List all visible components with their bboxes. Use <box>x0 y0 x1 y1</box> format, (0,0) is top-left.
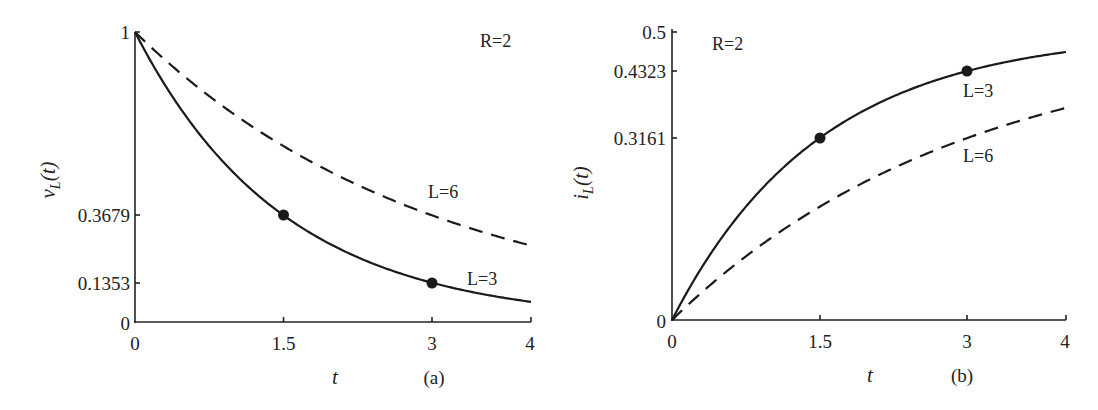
y-tick-label-b: 0.4323 <box>614 61 666 82</box>
curve-l6-b <box>672 108 1066 320</box>
panel-b: 0.5 0.4323 0.3161 0 0 1.5 3 4 t (b) iL(t… <box>569 22 1070 387</box>
curve-l6-a <box>135 32 531 246</box>
curve-l3-b <box>672 52 1066 320</box>
x-tick-label-a: 3 <box>427 333 437 354</box>
marker-point-b <box>962 66 973 77</box>
y-tick-label-a: 0 <box>121 313 131 334</box>
curve-label-l6-a: L=6 <box>428 182 458 202</box>
curve-label-l3-a: L=3 <box>467 269 497 289</box>
marker-point-a <box>427 278 438 289</box>
x-tick-label-b: 1.5 <box>808 331 832 352</box>
y-tick-label-a: 0.3679 <box>78 205 130 226</box>
panel-caption-a: (a) <box>423 367 444 389</box>
svg-text:vL(t): vL(t) <box>36 162 63 199</box>
panel-caption-b: (b) <box>951 365 973 387</box>
y-axis-title-b: iL(t) <box>569 166 596 199</box>
x-tick-label-b: 3 <box>962 331 972 352</box>
y-tick-label-a: 0.1353 <box>78 273 130 294</box>
x-axis-title-a: t <box>332 365 339 389</box>
svg-text:iL(t): iL(t) <box>569 166 596 199</box>
y-tick-label-b: 0.5 <box>642 22 666 43</box>
y-tick-label-b: 0.3161 <box>614 128 666 149</box>
x-tick-label-b: 4 <box>1060 331 1070 352</box>
y-tick-label-b: 0 <box>657 311 667 332</box>
x-tick-label-a: 0 <box>130 333 140 354</box>
param-label-b: R=2 <box>712 34 743 54</box>
x-tick-label-a: 1.5 <box>272 333 296 354</box>
curve-l3-a <box>135 32 531 302</box>
x-tick-label-a: 4 <box>525 333 535 354</box>
curve-label-l6-b: L=6 <box>963 146 993 166</box>
marker-point-a <box>278 210 289 221</box>
x-axis-title-b: t <box>867 363 874 387</box>
figure-canvas: 1 0.3679 0.1353 0 0 1.5 3 4 t (a) vL(t) … <box>0 0 1098 410</box>
curve-label-l3-b: L=3 <box>963 81 993 101</box>
x-tick-label-b: 0 <box>667 331 677 352</box>
param-label-a: R=2 <box>480 31 511 51</box>
y-axis-title-a: vL(t) <box>36 162 63 199</box>
panel-a: 1 0.3679 0.1353 0 0 1.5 3 4 t (a) vL(t) … <box>36 22 535 389</box>
y-tick-label-a: 1 <box>121 22 131 43</box>
marker-point-b <box>815 133 826 144</box>
